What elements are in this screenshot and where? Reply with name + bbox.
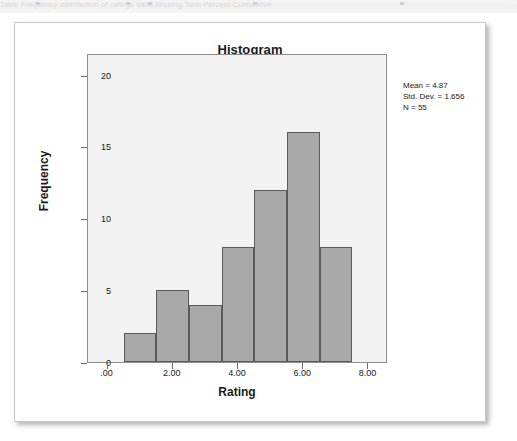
plot-area [87,54,387,363]
y-axis-tick-mark [81,147,87,148]
scanned-page-strip: Table Frequency distribution of ratings … [0,0,517,13]
x-axis-tick-mark [302,363,303,369]
histogram-bar [189,305,222,362]
y-axis-tick-mark [81,363,87,364]
statistics-annotation: Mean = 4.87Std. Dev. = 1.656N = 55 [403,80,464,113]
statistics-line: Std. Dev. = 1.656 [403,91,464,102]
statistics-line: Mean = 4.87 [403,80,464,91]
strip-mark [148,2,152,5]
x-axis-tick-label: 8.00 [359,368,377,378]
x-axis-tick-label: 6.00 [293,368,311,378]
strip-mark [126,2,130,5]
y-axis-tick-label: 5 [106,286,111,296]
histogram-bar [124,333,157,362]
strip-mark [253,2,257,5]
ghost-table-text: Table Frequency distribution of ratings … [0,1,272,8]
histogram-bar [222,247,255,362]
y-axis-tick-label: 10 [101,214,111,224]
y-axis-tick-mark [81,291,87,292]
histogram-chart: Histogram 05101520.002.004.006.008.00 Me… [15,23,485,421]
figure-card: Histogram 05101520.002.004.006.008.00 Me… [14,22,486,422]
x-axis-tick-mark [367,363,368,369]
y-axis-tick-label: 20 [101,71,111,81]
histogram-bar [287,132,320,362]
x-axis-tick-label: .00 [100,368,113,378]
y-axis-tick-label: 15 [101,142,111,152]
y-axis-label: Frequency [37,81,51,281]
x-axis-tick-mark [172,363,173,369]
strip-mark [400,2,404,5]
histogram-bar [320,247,353,362]
x-axis-label: Rating [87,385,387,399]
y-axis-tick-mark [81,219,87,220]
histogram-bar [254,190,287,362]
x-axis-tick-mark [237,363,238,369]
strip-mark [36,2,40,5]
bars-container [88,55,386,362]
x-axis-tick-label: 4.00 [228,368,246,378]
x-axis-tick-mark [107,363,108,369]
statistics-line: N = 55 [403,102,464,113]
x-axis-tick-label: 2.00 [163,368,181,378]
y-axis-tick-mark [81,76,87,77]
histogram-bar [156,290,189,362]
